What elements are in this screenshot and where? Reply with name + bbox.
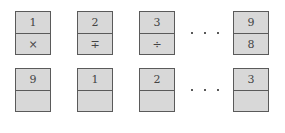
card-row1-3: 3 ÷ — [139, 11, 175, 55]
card-row2-2: 1 — [77, 68, 113, 112]
card-row1-2: 2 ∓ — [77, 11, 113, 55]
card-bottom-value — [140, 90, 174, 111]
card-row1-1: 1 × — [15, 11, 51, 55]
card-top-value: 1 — [16, 12, 50, 33]
card-top-value: 1 — [78, 69, 112, 90]
card-row1-last: 9 8 — [233, 11, 269, 55]
card-top-value: 3 — [234, 69, 268, 90]
card-bottom-value: × — [16, 33, 50, 54]
card-bottom-value: ∓ — [78, 33, 112, 54]
ellipsis-dot — [217, 89, 219, 91]
card-top-value: 2 — [140, 69, 174, 90]
ellipsis-dot — [191, 32, 193, 34]
card-row2-last: 3 — [233, 68, 269, 112]
ellipsis-dot — [204, 32, 206, 34]
card-top-value: 9 — [234, 12, 268, 33]
card-top-value: 3 — [140, 12, 174, 33]
card-bottom-value — [234, 90, 268, 111]
card-bottom-value: ÷ — [140, 33, 174, 54]
card-row2-3: 2 — [139, 68, 175, 112]
ellipsis-dot — [191, 89, 193, 91]
card-row2-1: 9 — [15, 68, 51, 112]
ellipsis-dot — [204, 89, 206, 91]
card-bottom-value: 8 — [234, 33, 268, 54]
ellipsis-dot — [217, 32, 219, 34]
card-bottom-value — [16, 90, 50, 111]
card-bottom-value — [78, 90, 112, 111]
card-top-value: 9 — [16, 69, 50, 90]
card-top-value: 2 — [78, 12, 112, 33]
